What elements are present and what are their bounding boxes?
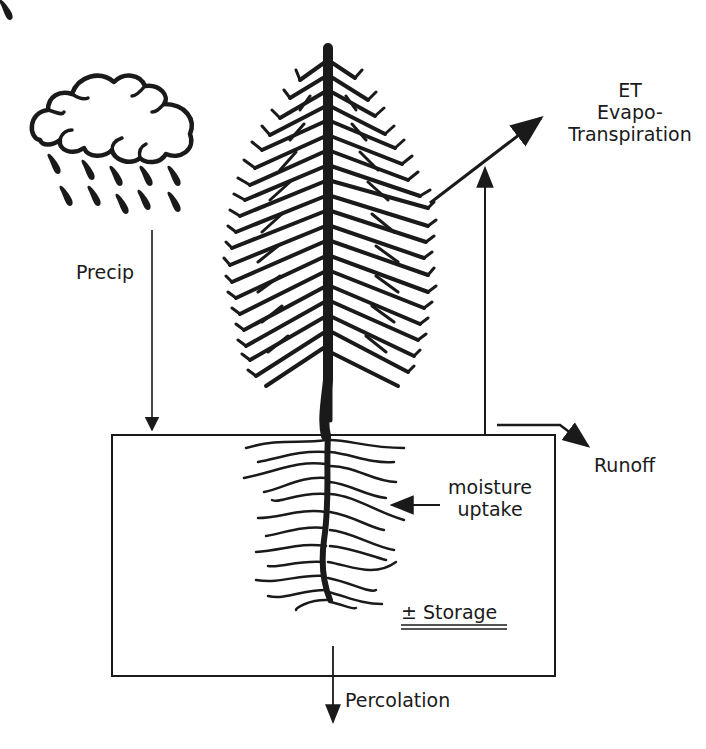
moisture-text: moisture — [440, 477, 540, 499]
percolation-label: Percolation — [345, 690, 450, 712]
runoff-label: Runoff — [594, 455, 655, 477]
et-label: ET Evapo- Transpiration — [560, 80, 700, 146]
storage-label: ± Storage — [401, 602, 497, 624]
soil-storage-box — [112, 435, 555, 676]
et-abbrev: ET — [560, 80, 700, 102]
precip-label: Precip — [76, 262, 134, 284]
et-line2: Evapo- — [560, 102, 700, 124]
et-line3: Transpiration — [560, 124, 700, 146]
moisture-uptake-label: moisture uptake — [440, 477, 540, 521]
cloud-icon — [32, 76, 192, 162]
uptake-text: uptake — [440, 499, 540, 521]
tree-icon — [224, 48, 436, 610]
